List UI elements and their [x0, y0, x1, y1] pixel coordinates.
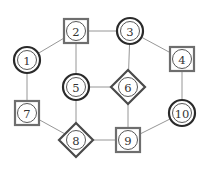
node-4: 4 — [170, 47, 194, 71]
node-label: 2 — [72, 25, 79, 39]
node-label: 1 — [23, 54, 30, 68]
node-7: 7 — [15, 101, 39, 125]
node-3: 3 — [117, 18, 143, 44]
node-5: 5 — [63, 74, 89, 100]
node-1: 1 — [14, 47, 40, 73]
node-label: 5 — [72, 81, 79, 95]
node-label: 9 — [124, 134, 131, 148]
node-label: 8 — [72, 134, 79, 148]
edges — [27, 31, 182, 140]
nodes: 12345678910 — [14, 18, 195, 157]
node-label: 7 — [23, 107, 30, 121]
node-label: 3 — [126, 25, 133, 39]
node-10: 10 — [169, 100, 195, 126]
node-label: 10 — [175, 107, 190, 121]
node-6: 6 — [111, 70, 145, 104]
node-9: 9 — [116, 128, 140, 152]
node-8: 8 — [59, 123, 93, 157]
graph-diagram: 12345678910 — [0, 0, 209, 171]
node-label: 6 — [124, 81, 131, 95]
node-label: 4 — [178, 53, 185, 67]
node-2: 2 — [64, 19, 88, 43]
